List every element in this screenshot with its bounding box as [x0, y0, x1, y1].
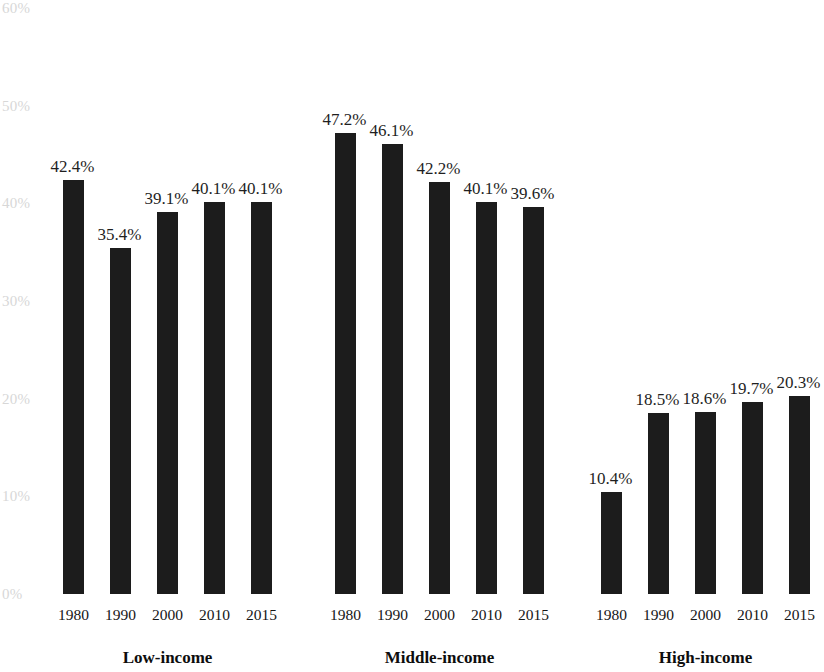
- bar[interactable]: [429, 182, 450, 594]
- x-axis-tick-label: 2010: [463, 607, 511, 623]
- x-axis-tick-label: 2010: [191, 607, 239, 623]
- bar[interactable]: [476, 202, 497, 594]
- bar[interactable]: [63, 180, 84, 594]
- x-axis-tick-label: 2000: [682, 607, 730, 623]
- bar[interactable]: [789, 396, 810, 594]
- bar-value-label: 39.6%: [511, 185, 555, 202]
- bar-value-label: 19.7%: [730, 380, 774, 397]
- group-label: High-income: [626, 649, 786, 666]
- bar-value-label: 42.4%: [51, 158, 95, 175]
- bar[interactable]: [695, 412, 716, 594]
- x-axis-tick-label: 2015: [776, 607, 824, 623]
- bar-value-label: 18.6%: [683, 390, 727, 407]
- x-axis-tick-label: 1980: [50, 607, 98, 623]
- bar-value-label: 42.2%: [417, 160, 461, 177]
- bar-value-label: 40.1%: [239, 180, 283, 197]
- x-axis-tick-label: 2015: [510, 607, 558, 623]
- x-axis-tick-label: 2010: [729, 607, 777, 623]
- bar-value-label: 46.1%: [370, 122, 414, 139]
- bar-value-label: 10.4%: [589, 470, 633, 487]
- x-axis-tick-label: 2000: [416, 607, 464, 623]
- bar-value-label: 40.1%: [464, 180, 508, 197]
- bar-value-label: 39.1%: [145, 190, 189, 207]
- bar[interactable]: [601, 492, 622, 594]
- bar-value-label: 35.4%: [98, 226, 142, 243]
- x-axis-tick-label: 1990: [635, 607, 683, 623]
- bar-value-label: 40.1%: [192, 180, 236, 197]
- x-axis-tick-label: 1980: [322, 607, 370, 623]
- bar[interactable]: [523, 207, 544, 594]
- bar[interactable]: [204, 202, 225, 594]
- group-label: Low-income: [88, 649, 248, 666]
- bar[interactable]: [382, 144, 403, 594]
- bar[interactable]: [335, 133, 356, 594]
- x-axis-tick-label: 1980: [588, 607, 636, 623]
- bar[interactable]: [110, 248, 131, 594]
- bar[interactable]: [251, 202, 272, 594]
- x-axis-tick-label: 2015: [238, 607, 286, 623]
- x-axis-tick-label: 1990: [369, 607, 417, 623]
- bar-value-label: 20.3%: [777, 374, 821, 391]
- bar[interactable]: [742, 402, 763, 594]
- bar-value-label: 18.5%: [636, 391, 680, 408]
- bar[interactable]: [157, 212, 178, 594]
- group-label: Middle-income: [360, 649, 520, 666]
- bar-value-label: 47.2%: [323, 111, 367, 128]
- x-axis-tick-label: 1990: [97, 607, 145, 623]
- bar[interactable]: [648, 413, 669, 594]
- x-axis-tick-label: 2000: [144, 607, 192, 623]
